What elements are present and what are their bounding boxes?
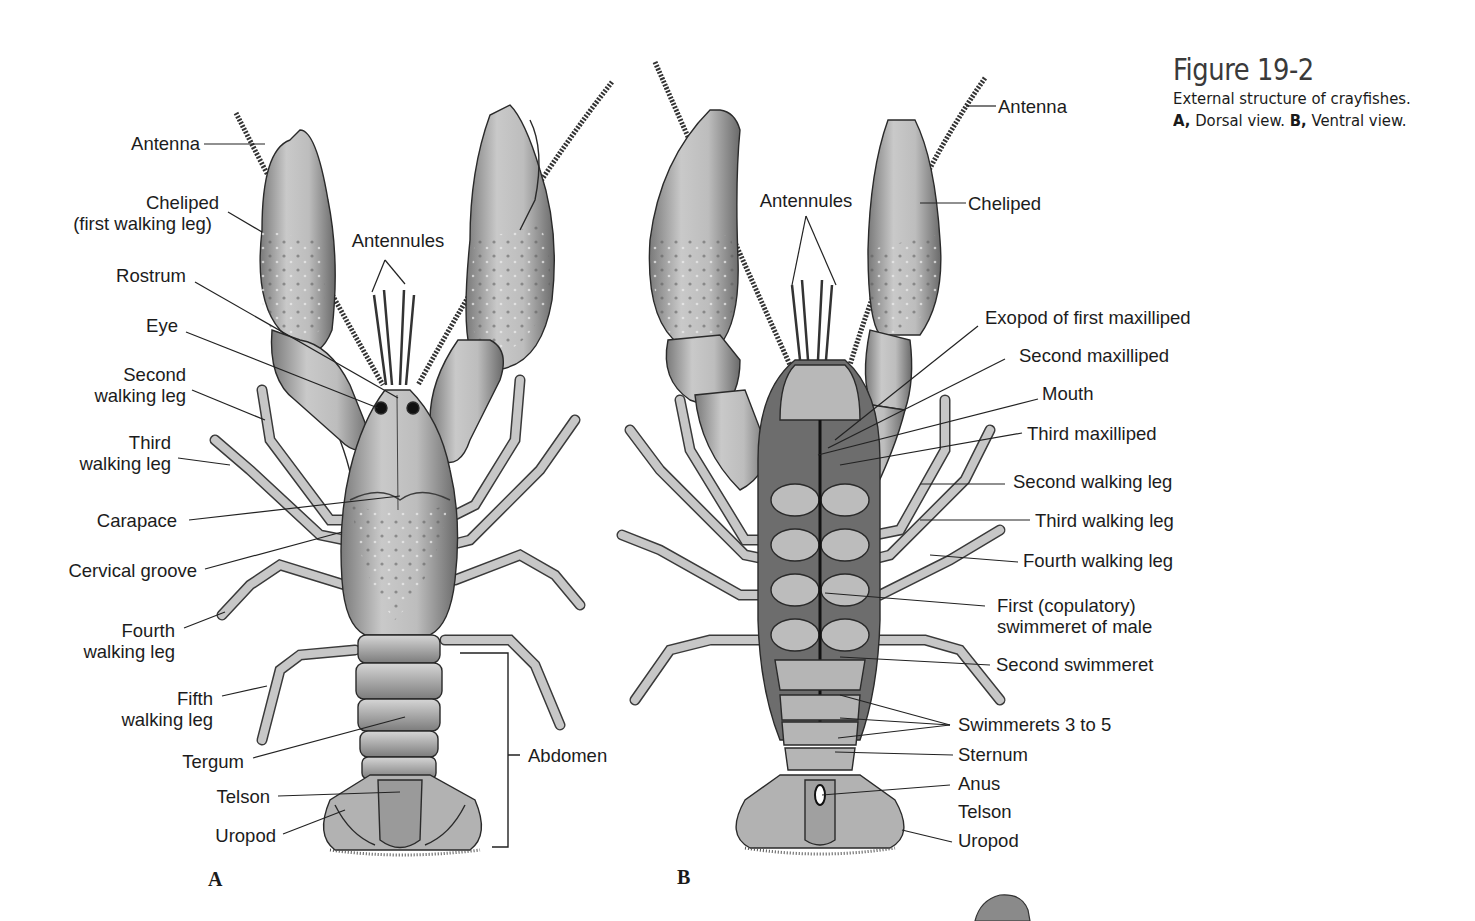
label-antennules-dorsal: Antennules xyxy=(338,230,458,251)
label-first-swimmeret-2: swimmeret of male xyxy=(997,616,1152,637)
label-abdomen: Abdomen xyxy=(528,745,607,766)
label-fifth-walking-leg-1: Fifth xyxy=(80,688,213,709)
label-antenna-ventral: Antenna xyxy=(998,96,1067,117)
caption-line-2: A, Dorsal view. B, Ventral view. xyxy=(1173,110,1411,132)
label-cervical-groove: Cervical groove xyxy=(40,560,197,581)
label-second-walking-leg-dorsal-1: Second xyxy=(60,364,186,385)
label-eye: Eye xyxy=(60,315,178,336)
label-third-walking-leg-ventral: Third walking leg xyxy=(1035,510,1174,531)
crayfish-illustration xyxy=(0,0,1475,921)
figure-page: Antenna Cheliped (first walking leg) Ant… xyxy=(0,0,1475,921)
label-third-walking-leg-dorsal-1: Third xyxy=(50,432,171,453)
label-anus: Anus xyxy=(958,773,1000,794)
caption-a-letter: A, xyxy=(1173,111,1190,130)
label-tergum: Tergum xyxy=(120,751,244,772)
caption-b-letter: B, xyxy=(1290,111,1307,130)
label-exopod-first-maxilliped: Exopod of first maxilliped xyxy=(985,307,1191,328)
label-cheliped-note: (first walking leg) xyxy=(40,213,212,234)
label-mouth: Mouth xyxy=(1042,383,1093,404)
label-first-swimmeret-1: First (copulatory) xyxy=(997,595,1136,616)
label-telson-dorsal: Telson xyxy=(150,786,270,807)
caption-line-1: External structure of crayfishes. xyxy=(1173,88,1411,110)
label-sternum: Sternum xyxy=(958,744,1028,765)
label-cheliped-ventral: Cheliped xyxy=(968,193,1041,214)
label-antennules-ventral: Antennules xyxy=(746,190,866,211)
label-second-walking-leg-ventral: Second walking leg xyxy=(1013,471,1172,492)
label-fourth-walking-leg-dorsal-1: Fourth xyxy=(40,620,175,641)
label-third-maxilliped: Third maxilliped xyxy=(1027,423,1157,444)
caption-b-text: Ventral view. xyxy=(1307,111,1407,130)
label-uropod-dorsal: Uropod xyxy=(150,825,276,846)
label-fifth-walking-leg-2: walking leg xyxy=(80,709,213,730)
caption-a-text: Dorsal view. xyxy=(1190,111,1289,130)
label-swimmerets-3-to-5: Swimmerets 3 to 5 xyxy=(958,714,1111,735)
ventral-crayfish xyxy=(622,62,1000,854)
panel-letter-b: B xyxy=(677,866,690,889)
label-cheliped-dorsal: Cheliped xyxy=(40,192,219,213)
label-antenna-dorsal: Antenna xyxy=(60,133,200,154)
label-fourth-walking-leg-ventral: Fourth walking leg xyxy=(1023,550,1173,571)
label-carapace: Carapace xyxy=(40,510,177,531)
panel-letter-a: A xyxy=(208,868,222,891)
label-second-walking-leg-dorsal-2: walking leg xyxy=(60,385,186,406)
pebble-decoration xyxy=(975,895,1030,921)
label-third-walking-leg-dorsal-2: walking leg xyxy=(50,453,171,474)
label-second-maxilliped: Second maxilliped xyxy=(1019,345,1169,366)
label-second-swimmeret: Second swimmeret xyxy=(996,654,1153,675)
label-rostrum: Rostrum xyxy=(60,265,186,286)
figure-caption: Figure 19-2 External structure of crayfi… xyxy=(1173,52,1437,132)
label-telson-ventral: Telson xyxy=(958,801,1011,822)
dorsal-crayfish xyxy=(215,82,612,855)
label-fourth-walking-leg-dorsal-2: walking leg xyxy=(40,641,175,662)
figure-title: Figure 19-2 xyxy=(1173,52,1400,88)
label-uropod-ventral: Uropod xyxy=(958,830,1019,851)
